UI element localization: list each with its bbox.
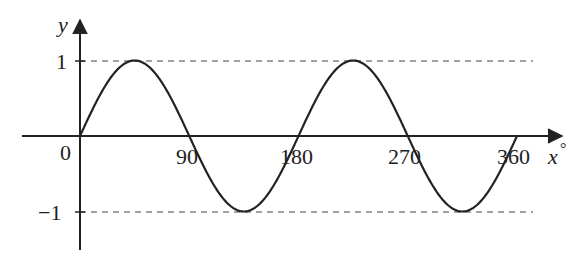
y-tick-label-neg1: −1 [38,200,61,225]
sine-graph: y 1 −1 0 90 180 270 360 x ° [0,0,581,265]
x-axis-label: x [547,144,558,169]
x-tick-label-90: 90 [176,144,198,169]
y-tick-label-1: 1 [56,49,67,74]
x-tick-label-360: 360 [497,144,530,169]
x-tick-label-270: 270 [388,144,421,169]
origin-label: 0 [60,140,71,165]
y-axis-label: y [56,12,68,37]
degree-symbol: ° [560,140,566,157]
x-tick-label-180: 180 [280,144,313,169]
